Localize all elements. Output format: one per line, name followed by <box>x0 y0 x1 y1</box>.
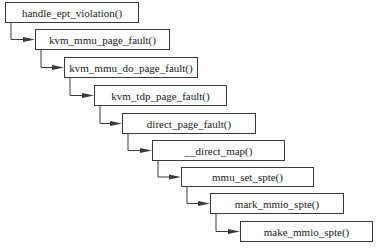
node-label: mark_mmio_spte() <box>235 198 319 210</box>
arrowhead-icon <box>140 148 152 153</box>
arrowhead-icon <box>23 37 35 42</box>
connector-line <box>100 106 114 124</box>
node-kvm-mmu-page-fault: kvm_mmu_page_fault() <box>35 29 170 50</box>
node-label: make_mmio_spte() <box>264 226 350 238</box>
arrowhead-icon <box>198 201 210 206</box>
node-label: mmu_set_spte() <box>212 171 283 183</box>
node-label: handle_ept_violation() <box>22 7 122 19</box>
connector-line <box>187 187 202 204</box>
node-mmu-set-spte: mmu_set_spte() <box>181 167 314 187</box>
arrowhead-icon <box>169 175 181 180</box>
node-label: kvm_tdp_page_fault() <box>111 90 209 102</box>
arrowhead-icon <box>110 121 122 126</box>
node-direct-page-fault: direct_page_fault() <box>122 113 256 134</box>
connector-line <box>41 50 56 68</box>
arrowhead-icon <box>82 93 94 98</box>
arrowhead-icon <box>228 229 240 234</box>
connector-line <box>11 23 27 40</box>
node-kvm-tdp-page-fault: kvm_tdp_page_fault() <box>94 85 227 106</box>
node-handle-ept-violation: handle_ept_violation() <box>5 2 139 23</box>
connector-line <box>70 78 86 96</box>
node-label: __direct_map() <box>185 145 253 157</box>
node-mark-mmio-spte: mark_mmio_spte() <box>210 193 344 214</box>
node-make-mmio-spte: make_mmio_spte() <box>240 221 373 242</box>
node-kvm-mmu-do-page-fault: kvm_mmu_do_page_fault() <box>64 57 198 78</box>
connector-line <box>216 214 232 232</box>
node-direct-map: __direct_map() <box>152 140 285 161</box>
node-label: kvm_mmu_page_fault() <box>49 34 156 46</box>
node-label: kvm_mmu_do_page_fault() <box>69 62 192 74</box>
arrowhead-icon <box>52 65 64 70</box>
connector-line <box>128 134 144 151</box>
node-label: direct_page_fault() <box>147 118 231 130</box>
connector-line <box>158 161 173 177</box>
call-chain-diagram: handle_ept_violation() kvm_mmu_page_faul… <box>0 0 379 251</box>
